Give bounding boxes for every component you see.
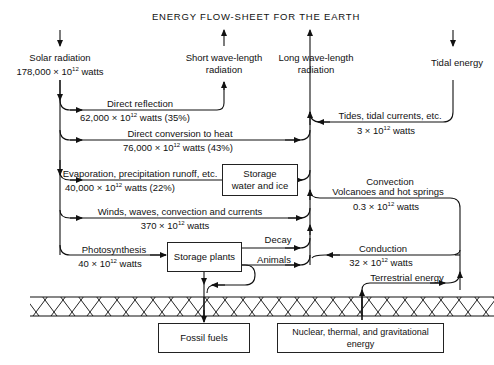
conduction-label: Conduction (359, 243, 407, 254)
long-wave-label-1: Long wave-length (279, 52, 354, 63)
nuclear-thermal-gravitational-box: Nuclear, thermal, and gravitational ener… (277, 323, 444, 353)
storage-water-ice-box: Storagewater and ice (222, 164, 298, 196)
terrestrial-energy-label: Terrestrial energy (370, 272, 443, 283)
ground-layer (30, 297, 494, 316)
long-wave-label-2: radiation (298, 64, 334, 75)
convection-value: 0.3 × 1012 watts (353, 201, 419, 212)
tidal-energy-label: Tidal energy (431, 57, 483, 68)
solar-radiation-value: 178,000 × 1012 watts (16, 66, 103, 77)
convection-label-2: Volcanoes and hot springs (332, 186, 443, 197)
storage-water-line1: Storage (232, 168, 289, 180)
evaporation-value: 40,000 × 1012 watts (22%) (65, 182, 175, 193)
diagram-title: ENERGY FLOW-SHEET FOR THE EARTH (152, 11, 360, 22)
fossil-fuels-box: Fossil fuels (158, 323, 250, 353)
direct-conversion-value: 76,000 × 1012 watts (43%) (123, 142, 233, 153)
direct-reflection-value: 62,000 × 1012 watts (35%) (80, 112, 190, 123)
storage-plants-box: Storage plants (167, 242, 242, 272)
winds-label: Winds, waves, convection and currents (98, 206, 263, 217)
photosynthesis-label: Photosynthesis (82, 244, 146, 255)
winds-value: 370 × 1012 watts (141, 220, 210, 231)
decay-label: Decay (265, 234, 292, 245)
direct-reflection-label: Direct reflection (107, 98, 173, 109)
evaporation-label: Evaporation, precipitation runoff, etc. (63, 168, 218, 179)
short-wave-label-1: Short wave-length (186, 52, 263, 63)
solar-radiation-label: Solar radiation (29, 52, 90, 63)
direct-conversion-label: Direct conversion to heat (127, 128, 232, 139)
animals-label: Animals (257, 254, 291, 265)
storage-water-line2: water and ice (232, 180, 289, 192)
photosynthesis-value: 40 × 1012 watts (78, 258, 141, 269)
short-wave-label-2: radiation (206, 64, 242, 75)
conduction-value: 32 × 1012 watts (349, 257, 412, 268)
tides-label: Tides, tidal currents, etc. (338, 110, 441, 121)
tides-value: 3 × 1012 watts (357, 125, 415, 136)
